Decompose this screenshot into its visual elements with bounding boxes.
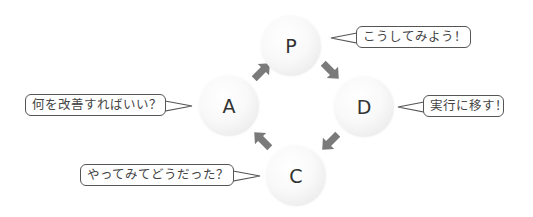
arrow-p-to-d-icon <box>318 58 345 85</box>
bubble-tail-p <box>331 33 357 43</box>
bubble-tail-c <box>233 171 260 181</box>
node-a-label: A <box>223 95 236 117</box>
bubble-d-text: 実行に移す！ <box>430 98 508 113</box>
arrow-c-to-a-icon <box>249 127 276 154</box>
bubble-tail-d <box>398 102 424 112</box>
node-c-label: C <box>289 165 302 187</box>
bubble-d-comment: 実行に移す！ <box>423 95 504 117</box>
bubble-p-comment: こうしてみよう！ <box>356 26 471 48</box>
node-a: A <box>199 76 259 136</box>
node-p-label: P <box>285 35 296 57</box>
arrow-d-to-c-icon <box>317 129 344 156</box>
node-d: D <box>334 77 394 137</box>
node-c: C <box>266 146 326 206</box>
bubble-tail-a <box>165 101 192 111</box>
bubble-c-comment: やってみてどうだった？ <box>80 164 234 186</box>
node-p: P <box>261 16 321 76</box>
node-d-label: D <box>357 96 372 118</box>
bubble-p-text: こうしてみよう！ <box>363 29 467 44</box>
bubble-c-text: やってみてどうだった？ <box>87 167 229 182</box>
bubble-a-comment: 何を改善すればいい？ <box>25 94 166 116</box>
bubble-a-text: 何を改善すればいい？ <box>32 97 162 112</box>
